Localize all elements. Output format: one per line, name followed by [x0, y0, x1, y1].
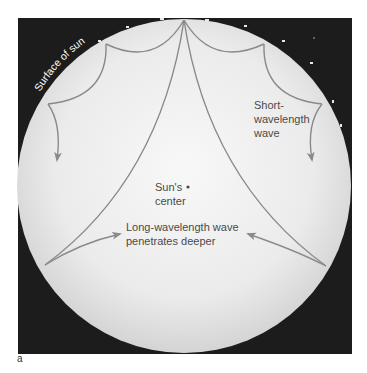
star-dot — [313, 37, 315, 39]
long-wave-label-2: penetrates deeper — [126, 235, 216, 247]
sun-disc — [17, 19, 351, 353]
short-wave-label-3: wave — [253, 127, 280, 139]
long-wave-label-1: Long-wavelength wave — [126, 221, 239, 233]
sun-wave-diagram: Surface of sun Short- wavelength wave Su… — [0, 0, 367, 373]
center-label-2: center — [155, 195, 186, 207]
sun-center-dot — [186, 185, 189, 188]
short-wave-label-1: Short- — [254, 99, 284, 111]
short-wave-label-2: wavelength — [253, 113, 310, 125]
panel-label: a — [17, 353, 23, 364]
center-label-1: Sun's — [155, 181, 183, 193]
